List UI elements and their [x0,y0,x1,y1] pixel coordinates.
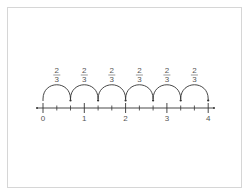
tick-label-2: 2 [123,114,128,123]
tick-label-3: 3 [165,114,170,123]
jump-arc-6 [181,85,209,101]
right-arrow-end [213,107,215,109]
fraction-label-6: 2 3 [191,66,198,84]
numerator: 2 [82,66,87,75]
fraction-label-5: 2 3 [163,66,170,84]
denominator: 3 [137,75,142,84]
tick-label-1: 1 [82,114,87,123]
left-arrow-end [36,107,38,109]
jump-arc-5 [153,85,181,101]
denominator: 3 [192,75,197,84]
jump-arc-1 [43,85,71,101]
fraction-label-3: 2 3 [108,66,115,84]
denominator: 3 [110,75,115,84]
tick-label-4: 4 [206,114,211,123]
denominator: 3 [55,75,60,84]
fraction-labels: 2 3 2 3 2 3 2 3 2 3 2 3 [53,66,198,84]
fraction-label-4: 2 3 [136,66,143,84]
jump-arc-2 [71,85,99,101]
numerator: 2 [165,66,170,75]
jump-arc-3 [98,85,126,101]
numerator: 2 [137,66,142,75]
number-line-diagram: 0 1 2 3 4 2 3 2 3 2 [0,0,245,195]
jump-arc-endpoints [69,99,209,101]
fraction-label-2: 2 3 [81,66,88,84]
tick-labels: 0 1 2 3 4 [41,114,211,123]
jump-arcs [43,85,208,101]
numerator: 2 [110,66,115,75]
denominator: 3 [165,75,170,84]
jump-arc-4 [126,85,154,101]
tick-label-0: 0 [41,114,46,123]
numerator: 2 [192,66,197,75]
denominator: 3 [82,75,87,84]
fraction-label-1: 2 3 [53,66,60,84]
numerator: 2 [55,66,60,75]
